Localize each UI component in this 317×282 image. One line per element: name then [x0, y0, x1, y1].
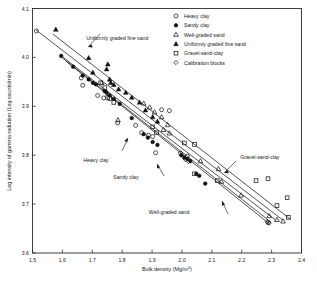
x-tick-label: 2.3	[268, 257, 275, 263]
series-sandy-clay	[59, 54, 207, 185]
chart-legend: Heavy claySandy clayWell-graded sandUnif…	[174, 13, 246, 66]
y-tick-label: 3.8	[22, 152, 29, 158]
data-point	[143, 108, 148, 112]
data-point	[59, 54, 63, 58]
chart-canvas: 1.51.61.71.81.92.02.12.22.32.4 3.63.73.8…	[0, 0, 317, 282]
series-uniformly-graded-fine-sand	[53, 27, 159, 123]
x-tick-label: 1.7	[89, 257, 96, 263]
data-point	[102, 96, 106, 100]
data-point	[156, 143, 160, 147]
regression-line	[53, 34, 291, 220]
annotation-label: Uniformly graded fine sand	[86, 35, 148, 41]
y-axis-ticks: 3.63.73.83.94.04.1	[22, 6, 36, 257]
series-gravel-sand-clay	[99, 81, 290, 219]
data-point	[266, 177, 270, 181]
data-point	[86, 55, 91, 59]
legend-label: Heavy clay	[184, 13, 210, 19]
data-point	[203, 182, 207, 186]
legend-marker	[174, 60, 178, 64]
annotation-label: Sandy clay	[113, 174, 139, 180]
y-tick-label: 4.1	[22, 6, 29, 12]
data-point	[197, 174, 201, 178]
x-tick-label: 2.0	[178, 257, 185, 263]
data-point	[160, 108, 164, 112]
data-point	[104, 67, 109, 71]
x-axis-ticks: 1.51.61.71.81.92.02.12.22.32.4	[29, 250, 305, 263]
data-point	[81, 83, 85, 87]
data-point	[81, 74, 85, 78]
x-tick-label: 1.9	[148, 257, 155, 263]
series-heavy-clay	[34, 29, 270, 225]
data-point	[147, 105, 152, 109]
legend-marker	[174, 51, 178, 55]
data-point	[150, 115, 155, 119]
series-well-graded-sand	[100, 80, 286, 223]
annotation-label: Well-graded sand	[149, 209, 190, 215]
legend-label: Uniformly graded fine sand	[184, 41, 246, 47]
x-tick-label: 2.1	[208, 257, 215, 263]
data-point	[155, 119, 160, 123]
y-axis-title: Log intensity of gamma radiation (Log co…	[6, 71, 12, 191]
legend-label: Well-graded sand	[184, 32, 225, 38]
data-point	[142, 132, 146, 136]
data-point	[94, 82, 98, 86]
regression-line	[60, 55, 275, 220]
data-point	[275, 204, 279, 208]
data-point	[112, 101, 116, 105]
data-point	[105, 91, 109, 95]
x-tick-label: 1.5	[29, 257, 36, 263]
data-point	[71, 65, 75, 69]
legend-marker	[174, 14, 178, 18]
x-tick-label: 2.2	[238, 257, 245, 263]
data-point	[130, 116, 134, 120]
data-point	[118, 102, 122, 106]
data-point	[53, 27, 58, 31]
data-point	[146, 136, 150, 140]
data-point	[96, 94, 100, 98]
data-point	[159, 115, 164, 119]
annotation-label: Gravel-sand-clay	[240, 154, 280, 160]
legend-marker	[174, 41, 179, 45]
regression-line	[36, 30, 283, 220]
legend-label: Sandy clay	[184, 22, 210, 28]
y-tick-label: 3.6	[22, 250, 29, 256]
data-point	[151, 135, 155, 139]
x-tick-label: 1.8	[119, 257, 126, 263]
data-point	[116, 87, 121, 91]
legend-label: Calibration blocks	[184, 60, 225, 66]
annotation-label: Heavy clay	[83, 157, 109, 163]
gamma-radiation-bulk-density-chart: 1.51.61.71.81.92.02.12.22.32.4 3.63.73.8…	[0, 0, 317, 282]
y-tick-label: 4.0	[22, 54, 29, 60]
legend-marker	[174, 23, 178, 27]
data-point	[134, 123, 138, 127]
data-point	[285, 196, 289, 200]
data-point	[154, 151, 158, 155]
y-tick-label: 3.9	[22, 103, 29, 109]
legend-marker	[174, 32, 179, 36]
data-point	[105, 62, 110, 66]
data-points	[34, 27, 290, 225]
x-axis-title: Bulk density (Mg/m3)	[142, 266, 192, 272]
x-tick-label: 1.6	[59, 257, 66, 263]
x-tick-label: 2.4	[298, 257, 305, 263]
legend-label: Gravel-sand-clay	[184, 50, 224, 56]
data-point	[87, 78, 91, 82]
data-point	[167, 109, 171, 113]
y-tick-label: 3.7	[22, 201, 29, 207]
data-point	[151, 140, 155, 144]
data-point	[254, 179, 258, 183]
